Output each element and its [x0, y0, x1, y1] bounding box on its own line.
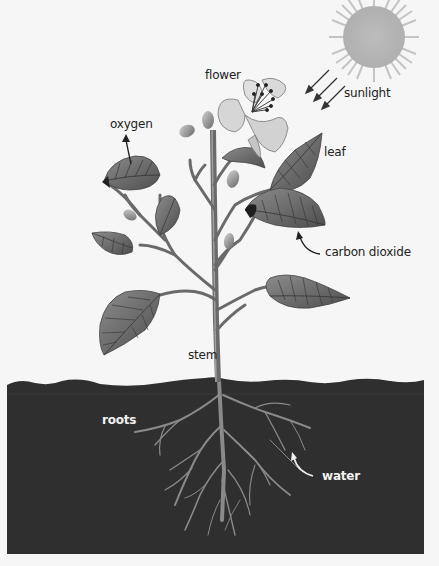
soil — [7, 377, 424, 554]
stem — [212, 130, 218, 382]
sunlight-arrows-icon — [306, 70, 345, 109]
carbon-dioxide-arrow-head — [296, 231, 303, 240]
leaf-right-large — [266, 275, 350, 308]
oxygen-arrow-head — [122, 134, 130, 142]
label-flower: flower — [205, 68, 241, 82]
plant-illustration — [0, 0, 439, 566]
label-carbon-dioxide: carbon dioxide — [325, 245, 411, 259]
label-sunlight: sunlight — [344, 86, 390, 100]
sun-icon — [329, 0, 419, 82]
label-oxygen: oxygen — [110, 117, 153, 131]
label-stem: stem — [188, 348, 217, 362]
carbon-dioxide-arrow-icon — [300, 237, 320, 254]
flower — [218, 78, 288, 158]
plant-diagram: flower sunlight oxygen leaf carbon dioxi… — [0, 0, 439, 566]
label-roots: roots — [102, 413, 136, 427]
label-water: water — [322, 469, 360, 483]
leaf-left-middle — [92, 232, 133, 255]
leaf-left-large — [100, 290, 161, 355]
label-leaf: leaf — [324, 145, 346, 159]
